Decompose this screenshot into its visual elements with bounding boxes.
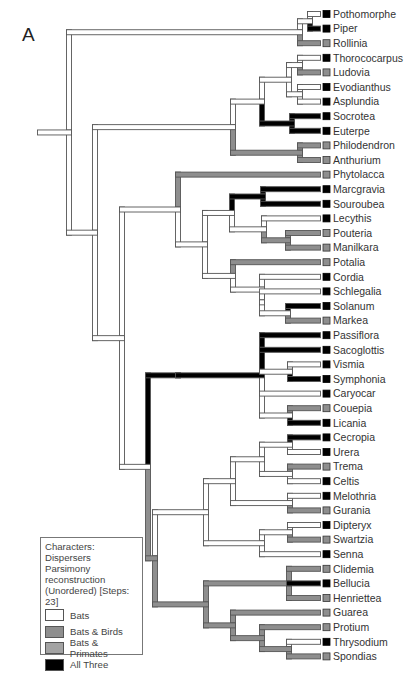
leaf-state-marker xyxy=(323,492,330,499)
taxon-label: Gurania xyxy=(333,504,371,516)
tree-branch xyxy=(298,19,313,24)
tree-branch xyxy=(260,471,293,476)
taxon-label: Souroubea xyxy=(333,198,385,210)
taxon-label: Markea xyxy=(333,314,368,326)
tree-branch xyxy=(260,552,321,557)
legend-swatch-bats-birds xyxy=(45,626,64,638)
taxon-label: Licania xyxy=(333,417,366,429)
leaf-state-marker xyxy=(323,288,330,295)
tree-branch xyxy=(290,128,321,133)
leaf-state-marker xyxy=(323,434,330,441)
tree-branch xyxy=(288,377,321,382)
tree-branch xyxy=(287,654,321,659)
legend: Characters: Dispersers Parsimony reconst… xyxy=(40,537,143,655)
tree-branch xyxy=(231,99,265,104)
tree-branch xyxy=(153,602,209,607)
taxon-label: Cordia xyxy=(333,271,364,283)
tree-branch xyxy=(262,238,291,243)
taxon-label: Trema xyxy=(333,460,363,472)
tree-branch xyxy=(286,245,321,250)
tree-branch xyxy=(262,216,321,221)
tree-branch xyxy=(286,304,321,309)
taxon-label: Sacoglottis xyxy=(333,344,384,356)
taxon-label: Senna xyxy=(333,548,364,560)
taxon-label: Passiflora xyxy=(333,329,379,341)
taxon-label: Marcgravia xyxy=(333,183,385,195)
tree-branch xyxy=(120,207,125,341)
tree-branch xyxy=(287,581,321,586)
tree-branch xyxy=(308,12,321,17)
tree-branch xyxy=(260,413,293,418)
tree-branch xyxy=(260,300,265,305)
taxon-label: Solanum xyxy=(333,300,375,312)
taxon-label: Lecythis xyxy=(333,212,372,224)
legend-item-bats: Bats xyxy=(45,607,138,624)
leaf-state-marker xyxy=(323,273,330,280)
tree-branch xyxy=(231,501,293,506)
taxon-label: Thrysodium xyxy=(333,636,388,648)
legend-title-line: Parsimony reconstruction xyxy=(45,563,138,585)
tree-branch xyxy=(298,55,321,60)
tree-branch xyxy=(288,362,321,367)
tree-branch xyxy=(153,510,158,561)
tree-branch xyxy=(231,636,265,641)
taxon-label: Manilkara xyxy=(333,241,379,253)
leaf-state-marker xyxy=(323,361,330,368)
legend-title-line: (Unordered) [Steps: 23] xyxy=(45,585,138,607)
tree-branch xyxy=(298,41,321,46)
leaf-state-marker xyxy=(323,303,330,310)
tree-branch xyxy=(288,464,321,469)
tree-branch xyxy=(146,556,158,561)
tree-branch xyxy=(260,77,292,82)
taxon-label: Couepia xyxy=(333,402,372,414)
tree-branch xyxy=(260,647,292,652)
taxon-label: Dipteryx xyxy=(333,519,372,531)
tree-branch xyxy=(298,143,321,148)
tree-branch xyxy=(204,581,292,586)
legend-label: All Three xyxy=(70,659,108,670)
tree-branch xyxy=(288,435,321,440)
taxon-label: Socrotea xyxy=(333,110,375,122)
tree-branch xyxy=(290,114,321,119)
legend-swatch-bats-primates xyxy=(45,642,64,654)
tree-branch xyxy=(176,242,208,247)
tree-branch xyxy=(231,610,321,615)
taxon-label: Piper xyxy=(333,22,358,34)
leaf-state-marker xyxy=(323,507,330,514)
tree-branch xyxy=(260,391,321,396)
taxon-label: Protium xyxy=(333,621,369,633)
tree-branch xyxy=(261,201,321,206)
leaf-state-marker xyxy=(323,113,330,120)
leaf-state-marker xyxy=(323,332,330,339)
leaf-state-marker xyxy=(323,609,330,616)
taxon-label: Celtis xyxy=(333,475,359,487)
tree-branch xyxy=(288,450,321,455)
taxon-label: Euterpe xyxy=(333,125,370,137)
tree-branch xyxy=(204,623,236,628)
leaf-state-marker xyxy=(323,142,330,149)
tree-branch xyxy=(120,207,181,212)
leaf-state-marker xyxy=(323,376,330,383)
leaf-state-marker xyxy=(323,317,330,324)
leaf-state-marker xyxy=(323,346,330,353)
tree-branch xyxy=(288,493,321,498)
taxon-label: Vismia xyxy=(333,358,364,370)
leaf-state-marker xyxy=(323,463,330,470)
tree-branch xyxy=(308,26,321,31)
tree-branch xyxy=(288,406,321,411)
tree-branch xyxy=(203,273,236,278)
tree-branch xyxy=(93,125,236,130)
taxon-label: Henriettea xyxy=(333,592,382,604)
tree-branch xyxy=(93,336,125,341)
tree-branch xyxy=(288,420,321,425)
legend-title-line: Characters: Dispersers xyxy=(45,541,138,563)
leaf-state-marker xyxy=(323,405,330,412)
leaf-state-marker xyxy=(323,624,330,631)
leaf-state-marker xyxy=(323,449,330,456)
tree-branch xyxy=(288,508,321,513)
tree-branch xyxy=(203,210,235,215)
tree-branch xyxy=(176,172,181,212)
tree-branch xyxy=(204,541,265,546)
tree-branch xyxy=(203,242,208,278)
tree-branch xyxy=(287,92,303,97)
